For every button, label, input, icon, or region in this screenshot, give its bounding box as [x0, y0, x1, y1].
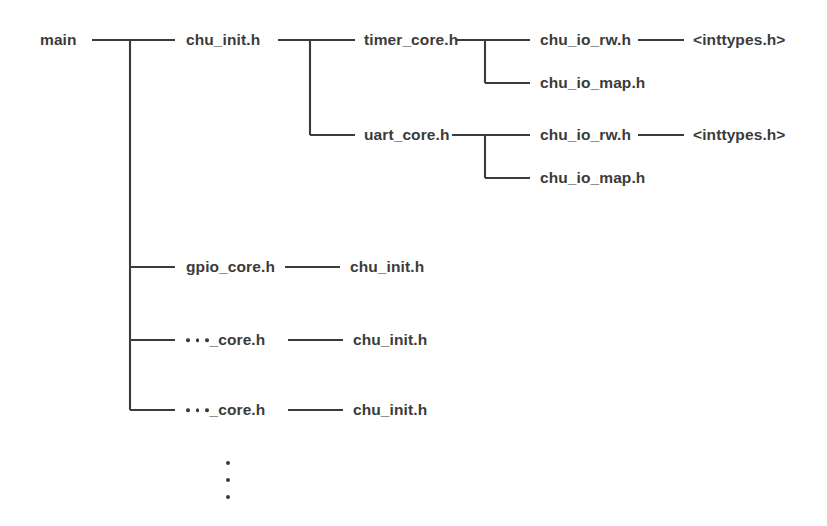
- node-generic-core-2-suffix: _core.h: [210, 401, 266, 418]
- node-generic-core-2: _core.h: [186, 402, 265, 418]
- node-timer-chu-io-map: chu_io_map.h: [540, 75, 645, 91]
- node-generic-1-chu-init: chu_init.h: [353, 332, 427, 348]
- node-main: main: [40, 32, 77, 48]
- ellipsis-dot: [226, 461, 230, 465]
- node-uart-core: uart_core.h: [364, 127, 450, 143]
- inline-ellipsis-icon: [186, 338, 209, 342]
- node-uart-inttypes: <inttypes.h>: [693, 127, 786, 143]
- node-timer-core: timer_core.h: [364, 32, 458, 48]
- node-timer-chu-io-rw: chu_io_rw.h: [540, 32, 631, 48]
- node-uart-chu-io-rw: chu_io_rw.h: [540, 127, 631, 143]
- node-gpio-chu-init: chu_init.h: [350, 259, 424, 275]
- node-generic-2-chu-init: chu_init.h: [353, 402, 427, 418]
- node-chu-init-top: chu_init.h: [186, 32, 260, 48]
- ellipsis-dot: [226, 495, 230, 499]
- node-uart-chu-io-map: chu_io_map.h: [540, 170, 645, 186]
- node-timer-inttypes: <inttypes.h>: [693, 32, 786, 48]
- node-generic-core-1: _core.h: [186, 332, 265, 348]
- node-gpio-core: gpio_core.h: [186, 259, 275, 275]
- vertical-ellipsis-icon: [226, 461, 230, 499]
- node-generic-core-1-suffix: _core.h: [210, 331, 266, 348]
- ellipsis-dot: [226, 478, 230, 482]
- inline-ellipsis-icon: [186, 408, 209, 412]
- dependency-tree-diagram: main chu_init.h timer_core.h uart_core.h…: [0, 0, 827, 526]
